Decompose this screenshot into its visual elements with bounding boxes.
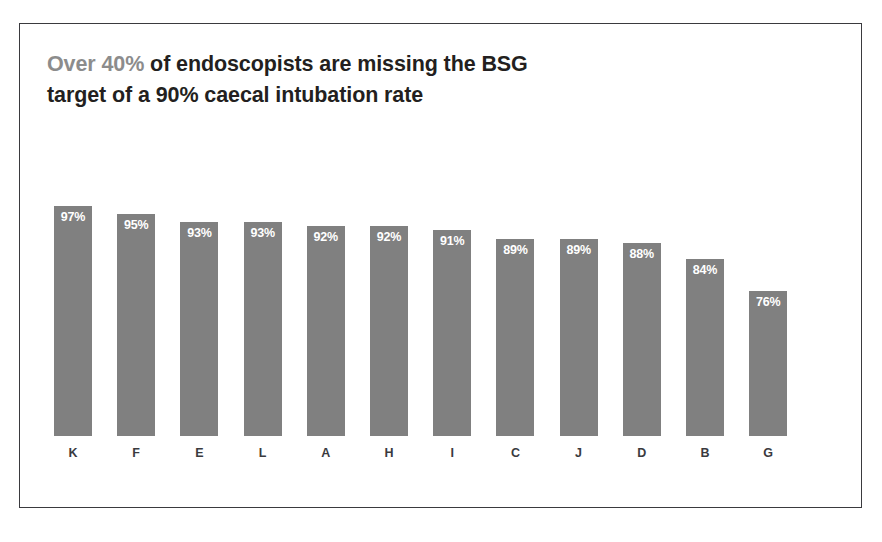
bar-B[interactable]: 84%	[686, 259, 724, 436]
category-label-G: G	[749, 446, 787, 460]
category-label-A: A	[307, 446, 345, 460]
category-label-J: J	[560, 446, 598, 460]
bar-value-label: 88%	[623, 247, 661, 261]
category-label-E: E	[180, 446, 218, 460]
bar-value-label: 89%	[560, 243, 598, 257]
title-line-2: target of a 90% caecal intubation rate	[47, 80, 707, 111]
category-label-H: H	[370, 446, 408, 460]
category-label-K: K	[54, 446, 92, 460]
bar-value-label: 89%	[496, 243, 534, 257]
bar-A[interactable]: 92%	[307, 226, 345, 436]
category-label-B: B	[686, 446, 724, 460]
category-label-L: L	[244, 446, 282, 460]
bar-value-label: 76%	[749, 295, 787, 309]
bar-slot: 89%	[560, 174, 598, 436]
title-line-1-rest: of endoscopists are missing the BSG	[144, 52, 527, 76]
bar-value-label: 97%	[54, 210, 92, 224]
chart-frame: Over 40% of endoscopists are missing the…	[19, 23, 862, 508]
category-label-I: I	[433, 446, 471, 460]
bar-G[interactable]: 76%	[749, 291, 787, 436]
category-label-C: C	[496, 446, 534, 460]
bar-D[interactable]: 88%	[623, 243, 661, 436]
bar-value-label: 92%	[307, 230, 345, 244]
bar-K[interactable]: 97%	[54, 206, 92, 436]
bar-E[interactable]: 93%	[180, 222, 218, 436]
bar-value-label: 92%	[370, 230, 408, 244]
chart-title: Over 40% of endoscopists are missing the…	[47, 49, 707, 111]
bar-value-label: 95%	[117, 218, 155, 232]
bar-slot: 93%	[180, 174, 218, 436]
bar-value-label: 93%	[244, 226, 282, 240]
bar-H[interactable]: 92%	[370, 226, 408, 436]
bar-slot: 92%	[307, 174, 345, 436]
bar-value-label: 93%	[180, 226, 218, 240]
category-label-D: D	[623, 446, 661, 460]
slide-canvas: Over 40% of endoscopists are missing the…	[0, 0, 882, 542]
bar-slot: 92%	[370, 174, 408, 436]
bar-value-label: 91%	[433, 234, 471, 248]
bar-value-label: 84%	[686, 263, 724, 277]
bar-C[interactable]: 89%	[496, 239, 534, 437]
bar-slot: 76%	[749, 174, 787, 436]
bar-slot: 88%	[623, 174, 661, 436]
bar-slot: 89%	[496, 174, 534, 436]
bar-slot: 84%	[686, 174, 724, 436]
bar-slot: 97%	[54, 174, 92, 436]
bar-J[interactable]: 89%	[560, 239, 598, 437]
title-accent-text: Over 40%	[47, 52, 144, 76]
bar-I[interactable]: 91%	[433, 230, 471, 436]
bar-slot: 95%	[117, 174, 155, 436]
bar-series: 97%K95%F93%E93%L92%A92%H91%I89%C89%J88%D…	[54, 174, 844, 436]
bar-L[interactable]: 93%	[244, 222, 282, 436]
bar-slot: 93%	[244, 174, 282, 436]
plot-area: 97%K95%F93%E93%L92%A92%H91%I89%C89%J88%D…	[54, 174, 844, 484]
bar-F[interactable]: 95%	[117, 214, 155, 436]
category-label-F: F	[117, 446, 155, 460]
title-line-1: Over 40% of endoscopists are missing the…	[47, 49, 707, 80]
bar-slot: 91%	[433, 174, 471, 436]
